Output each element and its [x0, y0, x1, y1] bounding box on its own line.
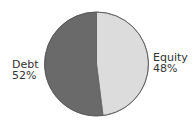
pie-slice-debt	[45, 12, 104, 116]
pie-slice-equity	[97, 12, 149, 116]
debt-label-value: 52%	[12, 70, 39, 81]
equity-label: Equity 48%	[153, 52, 188, 74]
debt-label: Debt 52%	[12, 59, 39, 81]
pie-chart: Debt 52% Equity 48%	[0, 0, 195, 122]
equity-label-value: 48%	[153, 63, 188, 74]
pie-slices	[45, 12, 149, 116]
